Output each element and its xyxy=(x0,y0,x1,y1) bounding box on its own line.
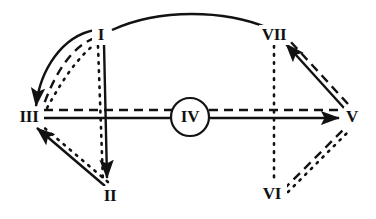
edge-VI-V xyxy=(283,128,350,192)
edge-II-III-solid xyxy=(37,128,105,186)
edge-I-III xyxy=(36,30,97,110)
edge-V-VII-solid xyxy=(286,44,344,108)
edge-II-III xyxy=(37,125,108,186)
node-V[interactable]: V xyxy=(344,107,362,127)
edge-I-VII xyxy=(112,14,268,30)
edge-V-VII xyxy=(286,41,348,108)
edge-V-VII-dashed xyxy=(290,41,348,104)
node-III-label: III xyxy=(20,107,40,126)
node-V-label: V xyxy=(346,107,359,126)
node-IV-label: IV xyxy=(181,107,200,126)
edge-I-III-dotted xyxy=(46,43,97,110)
edge-I-VII-solid xyxy=(112,14,268,30)
edge-I-II xyxy=(98,44,107,182)
node-VI[interactable]: VI xyxy=(259,184,287,204)
node-III[interactable]: III xyxy=(14,107,44,127)
node-VII-label: VII xyxy=(262,25,287,44)
node-VI-label: VI xyxy=(263,184,282,203)
node-II[interactable]: II xyxy=(99,186,122,206)
network-diagram: IV I II III V VI VII xyxy=(0,0,376,219)
edge-VI-V-dotted xyxy=(288,130,350,192)
edge-II-III-dotted xyxy=(41,125,108,182)
diagram-canvas: IV I II III V VI VII xyxy=(0,0,376,219)
edge-I-II-dotted xyxy=(98,46,103,182)
node-VII[interactable]: VII xyxy=(259,25,290,45)
node-I[interactable]: I xyxy=(92,25,110,45)
node-II-label: II xyxy=(104,186,117,205)
edge-VI-V-dashed xyxy=(283,128,345,190)
node-IV[interactable]: IV xyxy=(171,98,209,136)
node-I-label: I xyxy=(98,25,105,44)
edge-I-III-solid xyxy=(36,30,95,106)
